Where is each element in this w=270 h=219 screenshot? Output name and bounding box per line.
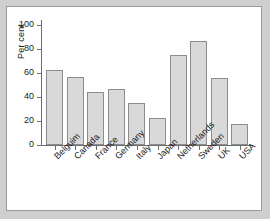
y-tick-label-80: 80 [24, 43, 34, 54]
y-tick-label-100: 100 [19, 19, 34, 30]
y-tick-label-0: 0 [29, 139, 34, 150]
x-axis-labels: BelguimCanadaFranceGermanyItalyJapanNeth… [41, 150, 263, 210]
bar-japan [149, 118, 166, 145]
bar-belguim [46, 70, 63, 145]
bar-series [42, 20, 253, 146]
y-tick-label-40: 40 [24, 91, 34, 102]
y-tick-label-60: 60 [24, 67, 34, 78]
bar-netherlands [170, 55, 187, 145]
y-tick-label-20: 20 [24, 115, 34, 126]
chart-figure-panel: Per cent 020406080100 BelguimCanadaFranc… [6, 6, 262, 211]
bar-usa [231, 124, 248, 145]
plot-area: 020406080100 [41, 20, 253, 146]
